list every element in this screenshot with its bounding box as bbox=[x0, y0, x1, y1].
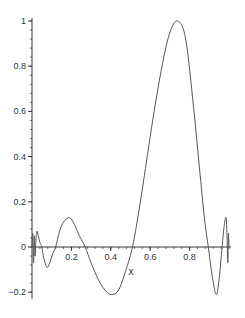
x-tick-label: 0.2 bbox=[65, 252, 78, 262]
x-axis-label: x bbox=[129, 266, 134, 277]
line-chart: −0.200.20.40.60.81 0.20.40.60.8 x bbox=[0, 0, 245, 318]
y-tick-label: 0.8 bbox=[13, 61, 26, 71]
y-tick-label: −0.2 bbox=[8, 287, 26, 297]
x-tick-label: 0.8 bbox=[183, 252, 196, 262]
y-tick-label: 0.4 bbox=[13, 152, 26, 162]
x-tick-label: 0.4 bbox=[105, 252, 118, 262]
x-tick-label: 0.6 bbox=[144, 252, 157, 262]
y-tick-label: 0.6 bbox=[13, 106, 26, 116]
y-tick-label: 0 bbox=[21, 242, 26, 252]
function-curve bbox=[32, 21, 229, 295]
y-axis: −0.200.20.40.60.81 bbox=[8, 16, 32, 299]
y-tick-label: 0.2 bbox=[13, 197, 26, 207]
y-tick-label: 1 bbox=[21, 16, 26, 26]
